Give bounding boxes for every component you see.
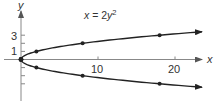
x-axis-label: x bbox=[206, 53, 213, 65]
data-point bbox=[158, 33, 162, 37]
data-point bbox=[19, 57, 24, 62]
data-point bbox=[158, 82, 162, 86]
upper-branch-curve bbox=[21, 32, 202, 60]
y-axis-label: y bbox=[17, 0, 25, 11]
y-tick-label-3: 3 bbox=[11, 30, 17, 42]
data-point bbox=[34, 66, 38, 70]
axes bbox=[4, 11, 202, 101]
data-point bbox=[81, 41, 85, 45]
data-point bbox=[81, 74, 85, 78]
x-tick-label-10: 10 bbox=[91, 63, 103, 75]
y-tick-label-1: 1 bbox=[11, 45, 17, 57]
x-tick-label-20: 20 bbox=[168, 63, 180, 75]
data-point bbox=[34, 49, 38, 53]
parabola-plot: 3 1 10 20 y x x = 2y2 bbox=[0, 0, 217, 103]
equation-label: x = 2y2 bbox=[83, 8, 116, 21]
